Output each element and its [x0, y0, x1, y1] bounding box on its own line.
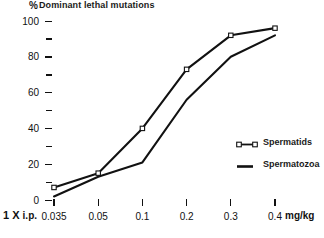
data-point-marker [273, 26, 277, 30]
legend-swatch-open-square-line [236, 140, 258, 149]
legend-item-spermatozoa: Spermatozoa [236, 158, 324, 180]
x-axis-prefix-route: i.p. [23, 210, 37, 221]
legend-label-spermatids: Spermatids [263, 137, 312, 147]
x-axis-tick-label: 0.3 [224, 211, 238, 222]
dominant-lethal-mutations-chart: %Dominant lethal mutations 020406080100 … [0, 0, 324, 238]
x-axis-tick-label: 0.2 [180, 211, 194, 222]
legend-item-spermatids: Spermatids [236, 136, 324, 158]
data-point-marker [229, 33, 233, 37]
x-axis-tick-mark [98, 199, 99, 206]
legend-swatch-solid-line [236, 162, 258, 171]
x-axis-tick-label: 0.035 [41, 211, 66, 222]
x-axis-tick-mark [186, 199, 187, 206]
x-axis-tick-label: 0.4 [268, 211, 282, 222]
x-axis-tick-mark [230, 199, 231, 206]
data-point-marker [184, 67, 188, 71]
data-point-marker [140, 126, 144, 130]
x-axis-tick-mark [142, 199, 143, 206]
x-axis-tick-mark [53, 199, 54, 206]
x-axis-tick-mark [274, 199, 275, 206]
x-axis-dose-prefix: 1 X i.p. [3, 209, 37, 221]
data-point-marker [52, 185, 56, 189]
x-axis-tick-label: 0.05 [88, 211, 107, 222]
legend: Spermatids Spermatozoa [236, 136, 324, 180]
x-axis-prefix-bold: 1 X [3, 209, 20, 221]
legend-label-spermatozoa: Spermatozoa [263, 159, 320, 169]
x-axis-unit-label: mg/kg [285, 210, 314, 221]
x-axis-tick-label: 0.1 [135, 211, 149, 222]
data-point-marker [96, 171, 100, 175]
